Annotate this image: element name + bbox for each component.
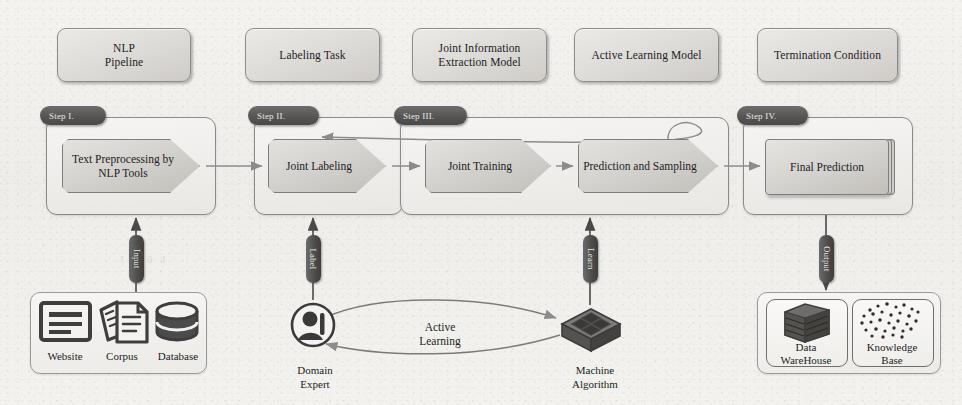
caption-text: Knowledge Base [867, 341, 918, 366]
node-label: Joint Training [448, 159, 512, 173]
source-label-database: Database [150, 350, 206, 363]
concept-label: Labeling Task [279, 48, 345, 62]
concept-active-learning-model[interactable]: Active Learning Model [574, 28, 719, 82]
edge-tag-input: Input [129, 235, 144, 283]
active-learning-label: Active Learning [392, 320, 488, 349]
caption-text: Domain Expert [297, 364, 332, 389]
source-label-website: Website [38, 350, 92, 363]
node-label: Joint Labeling [286, 159, 352, 173]
caption-text: Website [47, 350, 82, 362]
actor-label-domain-expert: Domain Expert [276, 351, 354, 391]
step-tag-4: Step IV. [737, 106, 808, 125]
concept-nlp-pipeline[interactable]: NLP Pipeline [57, 28, 191, 82]
edge-tag-label: Learn [586, 248, 596, 269]
edge-tag-output: Output [819, 235, 834, 283]
step-tag-2: Step II. [248, 106, 319, 125]
step-tag-label: Step I. [49, 111, 74, 121]
node-prediction-sampling[interactable]: Prediction and Sampling [578, 139, 718, 193]
caption-text: Machine Algorithm [572, 364, 618, 389]
step-tag-label: Step III. [403, 111, 434, 121]
edge-tag-label: Label [306, 235, 321, 283]
concept-termination-condition[interactable]: Termination Condition [757, 28, 898, 82]
node-label: Prediction and Sampling [583, 159, 697, 173]
edge-tag-learn: Learn [583, 235, 598, 283]
concept-label: Joint Information Extraction Model [438, 41, 520, 70]
edge-tag-label: Input [132, 249, 142, 268]
node-final-prediction[interactable]: Final Prediction [765, 139, 889, 195]
step-tag-label: Step II. [257, 111, 285, 121]
actor-label-machine-algorithm: Machine Algorithm [549, 351, 641, 391]
caption-text: Active Learning [419, 321, 461, 347]
concept-label: NLP Pipeline [105, 41, 144, 70]
output-label-data-warehouse: Data WareHouse [764, 341, 848, 368]
concept-joint-ie-model[interactable]: Joint Information Extraction Model [412, 28, 547, 82]
edge-active-learning-to-machine [324, 300, 556, 318]
caption-text: Corpus [106, 350, 138, 362]
edge-tag-label: Label [309, 249, 319, 270]
caption-text: Database [158, 350, 198, 362]
diagram-canvas: Ԑ ɒ ǝ ɿ ʇ ᴉ ɔ ǝ ɹ NLP Pipeline Labeling … [0, 0, 962, 405]
edge-tag-label: Output [822, 246, 832, 271]
concept-label: Active Learning Model [591, 48, 701, 62]
source-label-corpus: Corpus [95, 350, 149, 363]
concept-label: Termination Condition [774, 48, 881, 62]
step-tag-3: Step III. [394, 106, 467, 125]
caption-text: Data WareHouse [780, 341, 831, 366]
step-tag-label: Step IV. [746, 111, 776, 121]
node-label: Final Prediction [790, 161, 864, 173]
output-label-knowledge-base: Knowledge Base [850, 341, 934, 368]
node-label: Text Preprocessing by NLP Tools [72, 152, 174, 181]
step-tag-1: Step I. [40, 106, 106, 125]
concept-labeling-task[interactable]: Labeling Task [245, 28, 380, 82]
